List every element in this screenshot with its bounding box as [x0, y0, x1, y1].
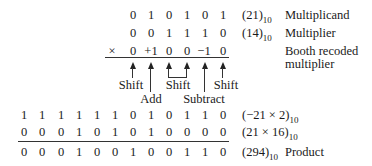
- decimal-value: (21 × 16): [242, 125, 289, 139]
- arrow-up-icon: [220, 62, 226, 69]
- bit: 0: [216, 145, 230, 159]
- booth-label-line1: Booth recoded: [285, 44, 358, 58]
- op-shift: Shift: [166, 78, 190, 92]
- bit: 0: [126, 108, 140, 122]
- op-subtract: Subtract: [183, 92, 225, 106]
- bit: 0: [90, 145, 104, 159]
- booth-label-line2: multiplier: [285, 57, 334, 71]
- bit: 1: [54, 108, 68, 122]
- bottom-divider: [18, 141, 229, 142]
- bit: 0: [35, 145, 49, 159]
- multiplier-decimal: (14)10: [242, 26, 272, 41]
- bit: 1: [108, 125, 122, 139]
- bit: 1: [35, 108, 49, 122]
- bit: 0: [126, 26, 140, 40]
- bit: 0: [216, 125, 230, 139]
- bit: 0: [126, 44, 140, 58]
- product-label: Product: [285, 145, 324, 159]
- arrow-up-icon: [184, 62, 190, 69]
- bit: 0: [198, 8, 212, 22]
- bit: 1: [216, 8, 230, 22]
- arrow-up-icon: [166, 62, 172, 69]
- op-add: Add: [140, 92, 162, 106]
- bit: −1: [195, 44, 213, 58]
- multiply-sign: ×: [105, 44, 119, 58]
- op-shift: Shift: [214, 78, 238, 92]
- multiplicand-decimal: (21)10: [242, 8, 272, 23]
- bit: 1: [180, 8, 194, 22]
- bit: 1: [180, 26, 194, 40]
- bit: 0: [216, 26, 230, 40]
- bit: 0: [108, 145, 122, 159]
- bit: 0: [162, 145, 176, 159]
- product-decimal: (294)10: [242, 145, 278, 160]
- partial1-decimal: (−21 × 2)10: [242, 108, 298, 123]
- arrow-up-icon: [130, 62, 136, 69]
- bit: 0: [126, 8, 140, 22]
- bit: 1: [72, 145, 86, 159]
- top-divider: [105, 57, 229, 58]
- bit: 0: [162, 44, 176, 58]
- bit: 0: [180, 125, 194, 139]
- bit: 1: [180, 108, 194, 122]
- bit: 1: [198, 26, 212, 40]
- bit: 0: [17, 125, 31, 139]
- bit: 0: [144, 145, 158, 159]
- bit: 0: [90, 125, 104, 139]
- bit: 1: [144, 108, 158, 122]
- bit: 0: [144, 26, 158, 40]
- bit: 0: [126, 125, 140, 139]
- bit: 0: [17, 145, 31, 159]
- bit: 0: [180, 44, 194, 58]
- bit: 1: [162, 26, 176, 40]
- bit: 1: [90, 108, 104, 122]
- base-subscript: 10: [269, 152, 278, 162]
- arrow-up-icon: [148, 62, 154, 69]
- partial2-decimal: (21 × 16)10: [242, 125, 298, 140]
- base-subscript: 10: [289, 115, 298, 125]
- base-subscript: 10: [263, 15, 272, 25]
- base-subscript: 10: [289, 132, 298, 142]
- bit: 1: [198, 145, 212, 159]
- decimal-value: (14): [242, 26, 263, 40]
- bit: 0: [216, 108, 230, 122]
- bit: 0: [54, 125, 68, 139]
- bit: 1: [108, 108, 122, 122]
- arrow-up-icon: [202, 62, 208, 69]
- op-shift: Shift: [119, 78, 143, 92]
- bit: 0: [54, 145, 68, 159]
- bit: 1: [198, 108, 212, 122]
- multiplicand-label: Multiplicand: [285, 8, 350, 22]
- decimal-value: (294): [242, 145, 269, 159]
- bit: 1: [17, 108, 31, 122]
- bit: 0: [162, 8, 176, 22]
- bit: 0: [216, 44, 230, 58]
- bit: 0: [162, 108, 176, 122]
- bit: 1: [144, 8, 158, 22]
- decimal-value: (21): [242, 8, 263, 22]
- bit: 1: [144, 125, 158, 139]
- multiplier-label: Multiplier: [285, 26, 336, 40]
- bit: 0: [162, 125, 176, 139]
- bit: +1: [142, 44, 160, 58]
- bit: 1: [72, 108, 86, 122]
- bit: 1: [72, 125, 86, 139]
- bit: 1: [180, 145, 194, 159]
- base-subscript: 10: [263, 33, 272, 43]
- bit: 0: [35, 125, 49, 139]
- bit: 1: [126, 145, 140, 159]
- bit: 0: [198, 125, 212, 139]
- decimal-value: (−21 × 2): [242, 108, 289, 122]
